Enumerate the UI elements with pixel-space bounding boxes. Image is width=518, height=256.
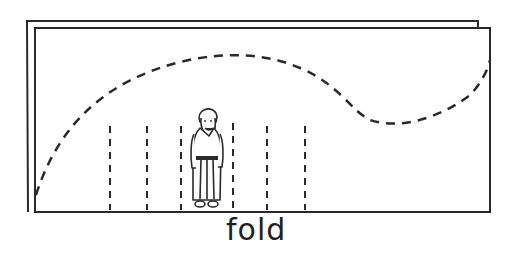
fold-caption: fold bbox=[226, 212, 286, 247]
back-sheet bbox=[27, 21, 478, 212]
dashed-curve bbox=[36, 55, 490, 195]
robed-figure bbox=[191, 109, 223, 207]
